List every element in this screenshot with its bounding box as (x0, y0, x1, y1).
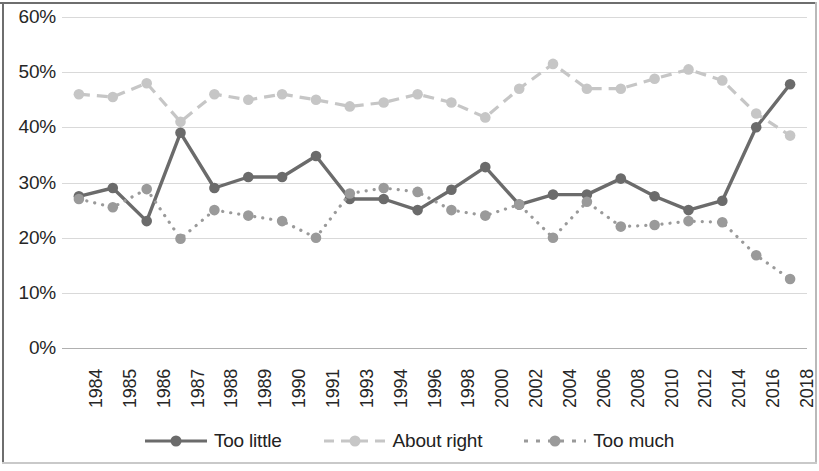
legend-entry-too-little[interactable]: Too little (145, 430, 282, 452)
data-point (108, 183, 119, 194)
y-tick-label: 40% (19, 116, 56, 138)
data-point (548, 189, 559, 200)
series-layer (62, 17, 807, 348)
data-point (717, 195, 728, 206)
data-point (277, 216, 288, 227)
legend-swatch-icon (524, 433, 586, 449)
data-point (108, 202, 119, 213)
data-point (108, 92, 119, 103)
data-point (311, 232, 322, 243)
data-point (243, 95, 254, 106)
data-point (717, 217, 728, 228)
series-too-little (74, 79, 796, 226)
data-point (311, 95, 322, 106)
data-point (751, 122, 762, 133)
data-point (209, 89, 220, 100)
data-point (141, 184, 152, 195)
x-tick-label: 1993 (357, 369, 378, 408)
x-tick-label: 2018 (797, 369, 818, 408)
x-tick-label: 1990 (289, 369, 310, 408)
data-point (378, 97, 389, 108)
data-point (751, 250, 762, 261)
x-tick-label: 1985 (120, 369, 141, 408)
x-tick-label: 2014 (729, 369, 750, 408)
series-line (79, 188, 790, 279)
data-point (141, 78, 152, 89)
y-tick-label: 20% (19, 227, 56, 249)
data-point (785, 274, 796, 285)
data-point (277, 89, 288, 100)
data-point (446, 184, 457, 195)
legend-swatch-icon (324, 433, 386, 449)
data-point (683, 205, 694, 216)
data-point (683, 216, 694, 227)
legend-entry-too-much[interactable]: Too much (524, 430, 674, 452)
data-point (751, 108, 762, 119)
data-point (141, 216, 152, 227)
data-point (175, 234, 186, 245)
data-point (175, 117, 186, 128)
legend-entry-about-right[interactable]: About right (324, 430, 483, 452)
x-tick-label: 2012 (695, 369, 716, 408)
x-tick-label: 2000 (492, 369, 513, 408)
frame-border-bottom (2, 462, 817, 464)
data-point (514, 199, 525, 210)
data-point (582, 197, 593, 208)
data-point (514, 83, 525, 94)
data-point (378, 194, 389, 205)
x-tick-label: 1988 (221, 369, 242, 408)
data-point (649, 74, 660, 85)
data-point (345, 101, 356, 112)
data-point (412, 187, 423, 198)
data-point (412, 205, 423, 216)
data-point (175, 128, 186, 139)
data-point (209, 183, 220, 194)
y-tick-label: 30% (19, 172, 56, 194)
data-point (74, 194, 85, 205)
y-tick-label: 60% (19, 6, 56, 28)
legend-marker (349, 436, 360, 447)
data-point (345, 188, 356, 199)
data-point (412, 89, 423, 100)
series-line (79, 64, 790, 136)
data-point (277, 172, 288, 183)
data-point (480, 162, 491, 173)
legend-marker (170, 436, 181, 447)
chart-container: 0%10%20%30%40%50%60% 1984198519861987198… (0, 0, 819, 471)
x-axis-tick-labels: 1984198519861987198819891990199119931994… (62, 352, 807, 414)
frame-border-top (0, 2, 817, 4)
data-point (74, 89, 85, 100)
data-point (548, 59, 559, 70)
legend-marker (550, 436, 561, 447)
x-tick-label: 1987 (188, 369, 209, 408)
data-point (480, 210, 491, 221)
x-tick-label: 2004 (560, 369, 581, 408)
y-tick-label: 10% (19, 282, 56, 304)
x-tick-label: 2006 (594, 369, 615, 408)
data-point (649, 220, 660, 231)
data-point (446, 97, 457, 108)
data-point (785, 79, 796, 90)
data-point (209, 205, 220, 216)
data-point (480, 112, 491, 123)
series-line (79, 84, 790, 221)
data-point (616, 83, 627, 94)
data-point (378, 183, 389, 194)
legend-label: Too little (214, 430, 282, 452)
data-point (785, 130, 796, 141)
x-tick-label: 1991 (323, 369, 344, 408)
data-point (616, 173, 627, 184)
data-point (243, 172, 254, 183)
gridline-0 (62, 348, 807, 349)
legend-swatch-icon (145, 433, 207, 449)
x-tick-label: 1998 (458, 369, 479, 408)
data-point (717, 75, 728, 86)
x-tick-label: 1989 (255, 369, 276, 408)
data-point (311, 151, 322, 162)
y-tick-label: 50% (19, 61, 56, 83)
data-point (243, 210, 254, 221)
plot-area (62, 17, 807, 348)
data-point (616, 221, 627, 232)
data-point (582, 83, 593, 94)
x-tick-label: 2002 (526, 369, 547, 408)
